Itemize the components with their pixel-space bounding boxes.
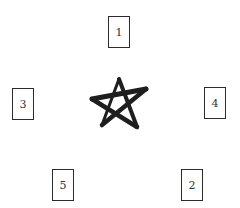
card-2: 2 (181, 169, 203, 201)
card-4: 4 (204, 87, 226, 119)
card-3: 3 (12, 88, 34, 120)
card-5-label: 5 (60, 179, 67, 192)
card-4-label: 4 (212, 97, 219, 110)
card-5: 5 (52, 169, 74, 201)
pentagram-star-icon (88, 77, 150, 137)
card-1-label: 1 (116, 26, 123, 39)
card-3-label: 3 (20, 98, 27, 111)
card-1: 1 (108, 16, 130, 48)
card-2-label: 2 (189, 179, 196, 192)
